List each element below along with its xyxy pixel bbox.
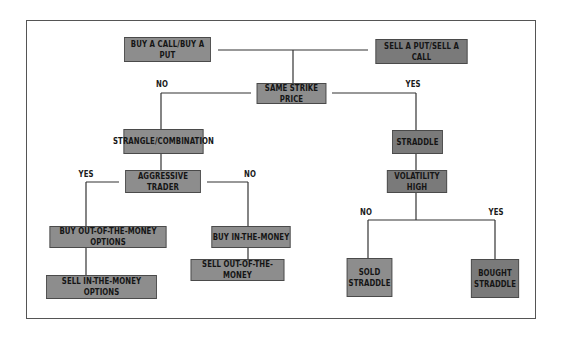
node-buy-otm-options: BUY OUT-OF-THE-MONEY OPTIONS (50, 226, 167, 248)
node-sold-straddle: SOLD STRADDLE (347, 258, 393, 297)
node-sell-put-call: SELL A PUT/SELL A CALL (375, 39, 467, 64)
edge-label-aggressive-no: NO (244, 169, 256, 179)
node-volatility-high: VOLATILITY HIGH (387, 170, 447, 193)
edge-label-aggressive-yes: YES (79, 169, 94, 179)
node-sell-otm: SELL OUT-OF-THE-MONEY (191, 259, 285, 281)
edge-label-strike-yes: YES (406, 79, 421, 89)
node-sell-itm-options: SELL IN-THE-MONEY OPTIONS (46, 275, 157, 299)
node-aggressive-trader: AGGRESSIVE TRADER (125, 170, 201, 193)
edge-label-volatility-yes: YES (489, 207, 504, 217)
node-same-strike-price: SAME STRIKE PRICE (257, 83, 327, 104)
node-straddle: STRADDLE (392, 130, 443, 154)
node-bought-straddle: BOUGHT STRADDLE (471, 259, 519, 298)
edge-label-strike-no: NO (156, 79, 168, 89)
node-buy-call-put: BUY A CALL/BUY A PUT (124, 37, 211, 62)
edge-label-volatility-no: NO (360, 207, 372, 217)
node-strangle-combination: STRANGLE/COMBINATION (124, 129, 204, 154)
node-buy-itm: BUY IN-THE-MONEY (211, 226, 290, 248)
